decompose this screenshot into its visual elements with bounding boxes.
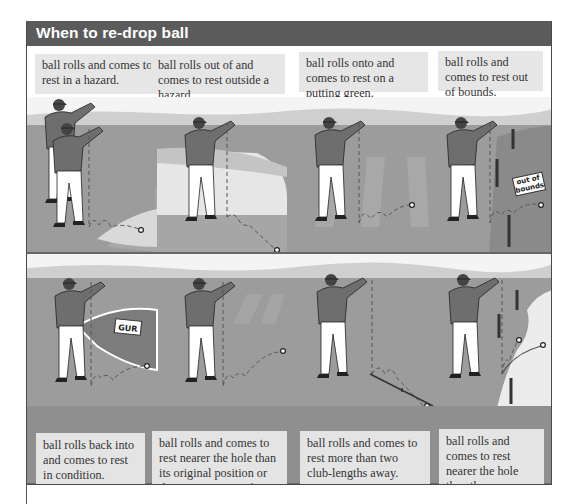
infographic-frame: When to re-drop ball ball rolls and come… — [26, 21, 552, 485]
header-bar: When to re-drop ball — [27, 21, 551, 46]
scene-bottom-row: GUR — [27, 252, 551, 406]
caption-top-4: ball rolls and comes to rest out of boun… — [438, 51, 543, 91]
scene-top-row: out of bounds — [27, 97, 551, 252]
caption-top-3: ball rolls onto and comes to rest on a p… — [299, 52, 428, 92]
caption-bottom-3: ball rolls and comes to rest more than t… — [300, 431, 430, 485]
page-rule — [26, 485, 27, 504]
page-title: When to re-drop ball — [36, 24, 189, 42]
caption-top-1: ball rolls and comes to rest in a hazard… — [35, 54, 158, 94]
caption-bottom-1: ball rolls back into and comes to rest i… — [36, 433, 145, 485]
caption-bottom-2: ball rolls and comes to rest nearer the … — [152, 431, 287, 485]
caption-top-2: ball rolls out of and comes to rest outs… — [151, 54, 285, 94]
caption-bottom-4: ball rolls and comes to rest nearer the … — [439, 429, 544, 485]
gur-sign: GUR — [114, 319, 141, 336]
